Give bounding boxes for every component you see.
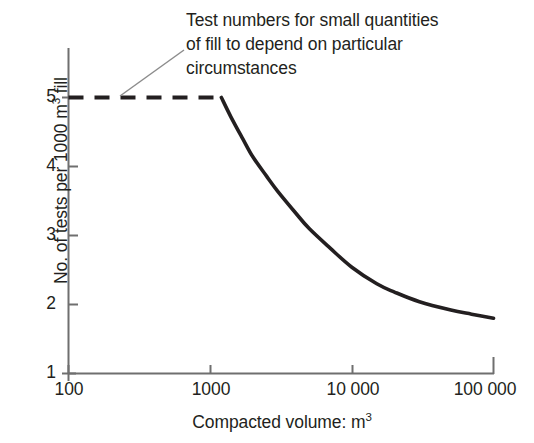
x-tick-label-100: 100	[38, 379, 100, 400]
annotation-line-3: circumstances	[186, 56, 516, 80]
y-tick-label-4: 4	[34, 155, 56, 176]
y-tick-label-5: 5	[34, 86, 56, 107]
x-axis-title: Compacted volume: m3	[68, 412, 496, 433]
annotation-line-2: of fill to depend on particular	[186, 32, 516, 56]
x-axis-ticks	[69, 357, 494, 381]
annotation-plateau-note: Test numbers for small quantities of fil…	[186, 8, 516, 80]
chart-figure: Test numbers for small quantities of fil…	[0, 0, 534, 443]
y-axis-title-main: No. of tests per 1000 m	[51, 104, 71, 284]
x-tick-label-100000: 100 000	[437, 379, 533, 400]
x-tick-label-1000: 1000	[168, 379, 254, 400]
x-tick-label-10000: 10 000	[305, 379, 401, 400]
annotation-line-1: Test numbers for small quantities	[186, 8, 516, 32]
x-axis-title-main: Compacted volume: m	[192, 412, 365, 432]
y-tick-label-3: 3	[34, 224, 56, 245]
annotation-leader-line	[120, 50, 184, 96]
y-tick-label-2: 2	[34, 293, 56, 314]
series-decay-solid	[221, 98, 493, 319]
x-axis-title-exponent: 3	[365, 411, 371, 423]
